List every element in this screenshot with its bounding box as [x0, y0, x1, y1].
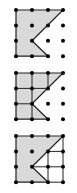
grid-dot [14, 54, 18, 58]
grid-dot [30, 117, 34, 121]
grid-dot [30, 8, 34, 12]
grid-dot [46, 86, 50, 90]
grid-dot [14, 134, 18, 138]
grid-dot [46, 117, 50, 121]
grid-dot [14, 8, 18, 12]
grid-dot [46, 180, 50, 184]
figure-2 [14, 71, 65, 121]
grid-dot [30, 71, 34, 75]
grid-dot [30, 23, 34, 27]
grid-dot [14, 71, 18, 75]
grid-dot [14, 86, 18, 90]
grid-dot [61, 54, 65, 58]
grid-dot [61, 8, 65, 12]
grid-dot [30, 102, 34, 106]
figure-3 [14, 134, 65, 184]
grid-dot [30, 134, 34, 138]
grid-dot [14, 165, 18, 169]
figure-1 [14, 8, 65, 58]
shaded-shape [16, 10, 63, 56]
grid-dot [14, 102, 18, 106]
grid-dot [30, 165, 34, 169]
grid-dot [14, 117, 18, 121]
grid-dot [46, 102, 50, 106]
grid-dot [46, 71, 50, 75]
grid-dot [61, 71, 65, 75]
grid-dot [46, 54, 50, 58]
grid-dot [61, 102, 65, 106]
grid-dot [30, 180, 34, 184]
grid-dot [46, 149, 50, 153]
grid-dot [46, 165, 50, 169]
shaded-shape [16, 136, 63, 182]
grid-dot [61, 134, 65, 138]
grid-dot [61, 165, 65, 169]
grid-dot [30, 86, 34, 90]
shaded-shape [16, 73, 63, 119]
grid-dot [14, 23, 18, 27]
grid-dot [61, 39, 65, 43]
grid-dot [61, 86, 65, 90]
grid-dot [14, 180, 18, 184]
grid-dot [30, 54, 34, 58]
grid-dot [61, 180, 65, 184]
grid-dot [14, 149, 18, 153]
grid-dot [61, 149, 65, 153]
grid-dot [30, 149, 34, 153]
grid-dot [46, 134, 50, 138]
grid-dot [30, 39, 34, 43]
grid-dot [14, 39, 18, 43]
grid-dot [61, 117, 65, 121]
grid-dot [46, 39, 50, 43]
grid-dot [46, 23, 50, 27]
diagram-canvas [0, 0, 77, 193]
grid-dot [46, 8, 50, 12]
grid-dot [61, 23, 65, 27]
